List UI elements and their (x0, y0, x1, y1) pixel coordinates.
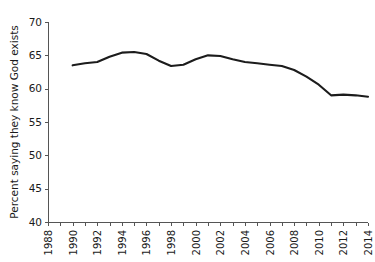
x-tick-label: 2014 (363, 230, 374, 255)
tick-marks (45, 23, 369, 227)
x-tick-label: 1988 (43, 230, 54, 255)
x-tick-label: 2000 (191, 230, 202, 255)
line-chart: Percent saying they know God exists 4045… (0, 0, 375, 262)
x-tick-label: 2004 (240, 230, 251, 255)
y-tick-label: 70 (29, 16, 42, 28)
x-tick-label: 2010 (314, 230, 325, 255)
x-tick-label: 2006 (265, 230, 276, 255)
y-tick-label: 40 (29, 216, 42, 228)
y-tick-label: 50 (29, 149, 42, 161)
x-tick-label: 1992 (92, 230, 103, 255)
y-tick-labels: 40455055606570 (29, 16, 42, 228)
x-tick-label: 2012 (338, 230, 349, 255)
x-tick-label: 1994 (117, 230, 128, 255)
x-tick-label: 1998 (166, 230, 177, 255)
data-series-line (73, 52, 368, 97)
x-tick-label: 1996 (141, 230, 152, 255)
y-tick-label: 55 (29, 116, 42, 128)
x-tick-label: 2008 (289, 230, 300, 255)
y-axis-label-text: Percent saying they know God exists (8, 25, 20, 218)
chart-container: Percent saying they know God exists 4045… (0, 0, 375, 262)
y-tick-label: 65 (29, 49, 42, 61)
y-tick-label: 45 (29, 182, 42, 194)
y-axis-title: Percent saying they know God exists (8, 25, 20, 218)
x-tick-label: 1990 (68, 230, 79, 255)
x-tick-label: 2002 (215, 230, 226, 255)
x-tick-labels: 1988199019921994199619982000200220042006… (43, 230, 374, 255)
y-tick-label: 60 (29, 82, 42, 94)
